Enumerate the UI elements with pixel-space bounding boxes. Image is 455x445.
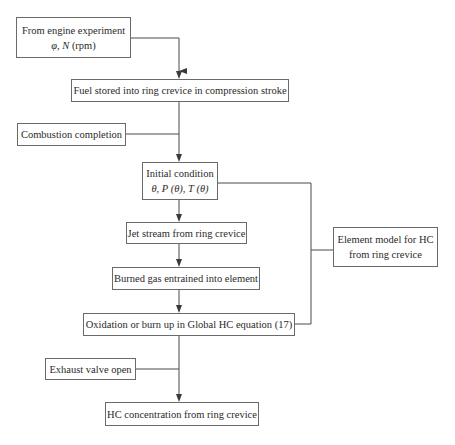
node-engine-experiment-title: From engine experiment <box>22 23 125 38</box>
node-initial-condition-params: θ, P (θ), T (θ) <box>151 181 208 196</box>
node-combustion-completion-label: Combustion completion <box>21 127 122 142</box>
node-jet-stream: Jet stream from ring crevice <box>126 222 247 244</box>
engine-params-unit: (rpm) <box>69 40 96 51</box>
node-oxidation-label: Oxidation or burn up in Global HC equati… <box>86 317 292 332</box>
node-element-model-subtitle: from ring crevice <box>349 247 422 262</box>
node-element-model: Element model for HC from ring crevice <box>333 227 438 267</box>
node-engine-experiment-params: φ, N (rpm) <box>51 38 96 53</box>
node-combustion-completion: Combustion completion <box>17 123 126 146</box>
node-element-model-title: Element model for HC <box>338 232 434 247</box>
node-initial-condition: Initial condition θ, P (θ), T (θ) <box>142 162 218 200</box>
node-hc-concentration: HC concentration from ring crevice <box>105 402 259 426</box>
node-oxidation: Oxidation or burn up in Global HC equati… <box>83 313 295 336</box>
node-engine-experiment: From engine experiment φ, N (rpm) <box>16 17 131 58</box>
node-initial-condition-title: Initial condition <box>146 166 213 181</box>
node-fuel-stored-label: Fuel stored into ring crevice in compres… <box>73 83 286 98</box>
flowchart-canvas: From engine experiment φ, N (rpm) Fuel s… <box>0 0 455 445</box>
edge-element-bracket <box>218 183 311 324</box>
node-burned-gas-label: Burned gas entrained into element <box>114 271 258 286</box>
node-hc-concentration-label: HC concentration from ring crevice <box>107 407 257 422</box>
node-jet-stream-label: Jet stream from ring crevice <box>128 226 246 241</box>
edge-engine-to-fuel <box>131 38 179 62</box>
node-burned-gas: Burned gas entrained into element <box>112 267 260 290</box>
node-exhaust-valve: Exhaust valve open <box>45 358 136 380</box>
engine-params-symbols: φ, N <box>51 40 69 51</box>
node-exhaust-valve-label: Exhaust valve open <box>49 362 131 377</box>
node-fuel-stored: Fuel stored into ring crevice in compres… <box>71 79 289 102</box>
